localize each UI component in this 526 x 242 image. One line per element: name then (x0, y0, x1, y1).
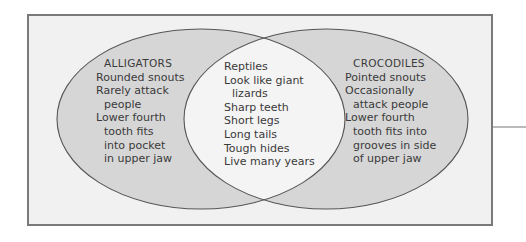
shared-group: Reptiles Look like giant lizards Sharp t… (224, 60, 315, 169)
crocodiles-item: tooth fits into (345, 125, 436, 139)
crocodiles-item: Occasionally (345, 84, 436, 98)
alligators-item: into pocket (96, 139, 185, 153)
shared-item: Live many years (224, 155, 315, 169)
shared-item: Reptiles (224, 60, 315, 74)
crocodiles-item: grooves in side (345, 139, 436, 153)
alligators-item: people (96, 98, 185, 112)
alligators-item: Rounded snouts (96, 71, 185, 85)
alligators-item: Rarely attack (96, 84, 185, 98)
shared-item: Tough hides (224, 142, 315, 156)
shared-item: Long tails (224, 128, 315, 142)
crocodiles-item: of upper jaw (345, 152, 436, 166)
shared-item: Short legs (224, 114, 315, 128)
crocodiles-item: Pointed snouts (345, 71, 436, 85)
crocodiles-group: CROCODILES Pointed snouts Occasionally a… (345, 57, 436, 166)
alligators-title: ALLIGATORS (96, 57, 185, 71)
shared-item: lizards (224, 87, 315, 101)
alligators-item: Lower fourth (96, 111, 185, 125)
shared-item: Sharp teeth (224, 101, 315, 115)
crocodiles-title: CROCODILES (345, 57, 436, 71)
venn-diagram: ALLIGATORS Rounded snouts Rarely attack … (0, 0, 526, 242)
alligators-item: in upper jaw (96, 152, 185, 166)
crocodiles-item: attack people (345, 98, 436, 112)
alligators-group: ALLIGATORS Rounded snouts Rarely attack … (96, 57, 185, 166)
shared-item: Look like giant (224, 74, 315, 88)
crocodiles-item: Lower fourth (345, 111, 436, 125)
alligators-item: tooth fits (96, 125, 185, 139)
